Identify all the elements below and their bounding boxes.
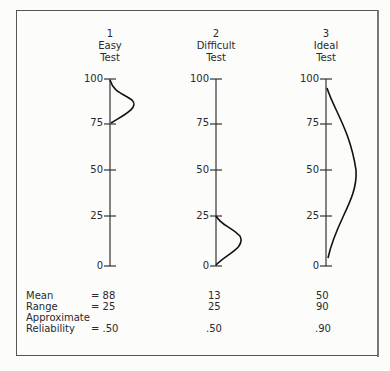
reliability-value-1: = .50 xyxy=(91,323,118,334)
easy-test-curve xyxy=(110,80,134,123)
range-value-1: = 25 xyxy=(91,301,115,312)
reliability-value-2: .50 xyxy=(206,323,222,334)
range-label: Range xyxy=(26,301,58,312)
reliability-label: Reliability xyxy=(26,323,75,334)
difficult-test-curve xyxy=(216,216,241,265)
approximate-label: Approximate xyxy=(26,312,90,323)
mean-value-2: 13 xyxy=(208,290,221,301)
mean-value-3: 50 xyxy=(316,290,329,301)
mean-label: Mean xyxy=(26,290,53,301)
range-value-3: 90 xyxy=(316,301,329,312)
range-value-2: 25 xyxy=(208,301,221,312)
mean-value-1: = 88 xyxy=(91,290,115,301)
ideal-test-curve xyxy=(327,88,356,258)
reliability-value-3: .90 xyxy=(315,323,331,334)
